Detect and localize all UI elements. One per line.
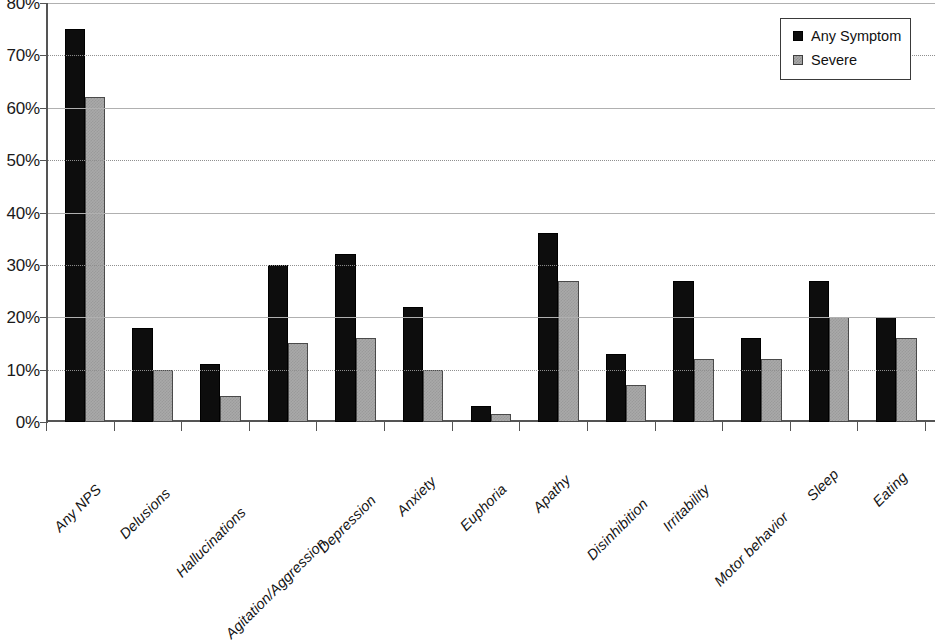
x-axis-category-label: Euphoria xyxy=(457,481,510,534)
x-tick-mark xyxy=(857,422,858,431)
x-axis-category-label: Anxiety xyxy=(394,473,439,518)
y-tick-mark xyxy=(40,3,48,4)
y-axis: 0%10%20%30%40%50%60%70%80% xyxy=(0,0,46,430)
legend-label: Severe xyxy=(811,53,857,68)
x-axis-category-label: Hallucinations xyxy=(173,504,249,580)
x-axis-category-label: Eating xyxy=(870,469,911,510)
y-tick-label: 0% xyxy=(16,414,40,431)
x-axis-category-label: Motor behavior xyxy=(711,509,792,590)
x-axis-category-label: Irritability xyxy=(659,481,712,534)
bar-any-symptom[interactable] xyxy=(403,307,423,422)
bar-severe[interactable] xyxy=(761,359,781,422)
legend-swatch-icon xyxy=(793,31,803,41)
x-tick-mark xyxy=(722,422,723,431)
y-tick-mark xyxy=(40,317,48,318)
gridline xyxy=(46,317,935,318)
x-tick-mark xyxy=(114,422,115,431)
bar-severe[interactable] xyxy=(491,414,511,422)
bar-severe[interactable] xyxy=(85,97,105,422)
y-tick-label: 80% xyxy=(7,0,40,12)
x-axis-category-label: Sleep xyxy=(804,466,842,504)
bar-severe[interactable] xyxy=(356,338,376,422)
y-tick-mark xyxy=(40,265,48,266)
x-axis-category-label: Agitation/Aggression xyxy=(222,535,329,642)
bar-any-symptom[interactable] xyxy=(200,364,220,422)
x-tick-mark xyxy=(790,422,791,431)
legend-item-any-symptom[interactable]: Any Symptom xyxy=(793,29,901,44)
y-tick-label: 50% xyxy=(7,152,40,169)
bar-any-symptom[interactable] xyxy=(606,354,626,422)
x-tick-mark xyxy=(181,422,182,431)
x-tick-mark xyxy=(249,422,250,431)
bar-any-symptom[interactable] xyxy=(809,281,829,422)
x-tick-mark xyxy=(316,422,317,431)
y-tick-label: 60% xyxy=(7,99,40,116)
chart-legend: Any Symptom Severe xyxy=(780,18,911,80)
bar-severe[interactable] xyxy=(288,343,308,422)
legend-label: Any Symptom xyxy=(811,29,901,44)
bar-severe[interactable] xyxy=(558,281,578,422)
legend-item-severe[interactable]: Severe xyxy=(793,53,857,68)
x-tick-mark xyxy=(587,422,588,431)
y-tick-label: 30% xyxy=(7,256,40,273)
x-tick-mark xyxy=(655,422,656,431)
y-tick-mark xyxy=(40,213,48,214)
gridline xyxy=(46,370,935,371)
bar-any-symptom[interactable] xyxy=(471,406,491,422)
bar-any-symptom[interactable] xyxy=(65,29,85,422)
bar-severe[interactable] xyxy=(423,370,443,422)
bar-any-symptom[interactable] xyxy=(132,328,152,422)
x-tick-mark xyxy=(384,422,385,431)
y-tick-mark xyxy=(40,160,48,161)
bar-any-symptom[interactable] xyxy=(335,254,355,422)
x-tick-mark xyxy=(519,422,520,431)
x-axis-category-label: Depression xyxy=(315,492,379,556)
x-axis-category-label: Apathy xyxy=(530,472,574,516)
y-tick-label: 10% xyxy=(7,361,40,378)
y-tick-mark xyxy=(40,370,48,371)
bar-any-symptom[interactable] xyxy=(538,233,558,422)
bar-severe[interactable] xyxy=(153,370,173,422)
y-tick-label: 40% xyxy=(7,204,40,221)
gridline xyxy=(46,160,935,161)
y-tick-mark xyxy=(40,108,48,109)
x-axis-category-label: Any NPS xyxy=(51,481,104,534)
x-tick-mark xyxy=(46,422,47,431)
bar-any-symptom[interactable] xyxy=(741,338,761,422)
legend-swatch-icon xyxy=(793,55,803,65)
x-axis-category-label: Delusions xyxy=(116,485,173,542)
gridline xyxy=(46,3,935,4)
bar-severe[interactable] xyxy=(694,359,714,422)
x-tick-mark xyxy=(925,422,926,431)
gridline xyxy=(46,108,935,109)
x-tick-mark xyxy=(452,422,453,431)
bar-any-symptom[interactable] xyxy=(673,281,693,422)
bar-any-symptom[interactable] xyxy=(268,265,288,422)
y-tick-mark xyxy=(40,55,48,56)
x-axis-category-label: Disinhibition xyxy=(583,496,651,564)
bar-severe[interactable] xyxy=(626,385,646,422)
gridline xyxy=(46,265,935,266)
bar-severe[interactable] xyxy=(896,338,916,422)
y-tick-label: 20% xyxy=(7,309,40,326)
gridline xyxy=(46,213,935,214)
bar-severe[interactable] xyxy=(220,396,240,422)
y-tick-label: 70% xyxy=(7,47,40,64)
